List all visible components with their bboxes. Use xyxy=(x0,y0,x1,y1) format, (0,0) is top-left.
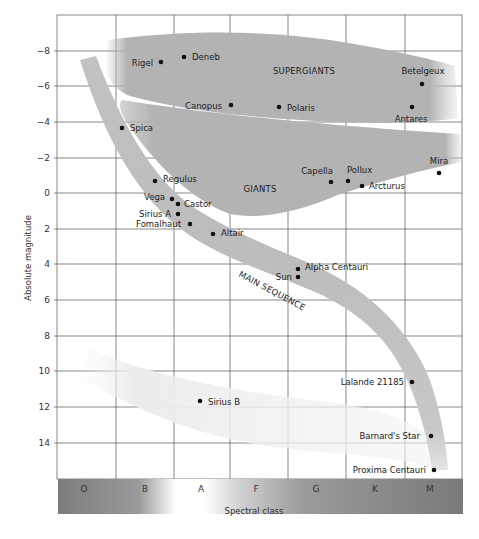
white-dwarf-band xyxy=(80,348,438,470)
region-label-supergiants: SUPERGIANTS xyxy=(273,66,335,76)
region-label-giants: GIANTS xyxy=(243,184,276,194)
svg-text:Polaris: Polaris xyxy=(287,103,315,113)
class-a: A xyxy=(198,484,205,494)
hr-diagram: −8 −6 −4 −2 0 2 4 6 8 10 12 14 Absolute … xyxy=(0,0,479,539)
ytick-4: 4 xyxy=(44,259,50,269)
svg-text:Regulus: Regulus xyxy=(163,174,197,184)
star-lalande-21185: Lalande 21185 xyxy=(341,377,415,387)
svg-text:Vega: Vega xyxy=(144,192,165,202)
svg-text:Proxima Centauri: Proxima Centauri xyxy=(353,465,426,475)
svg-text:Rigel: Rigel xyxy=(132,58,153,68)
svg-text:Sun: Sun xyxy=(276,272,292,282)
ytick-m2: −2 xyxy=(37,153,50,163)
svg-text:Canopus: Canopus xyxy=(185,101,223,111)
class-b: B xyxy=(142,484,148,494)
svg-text:Altair: Altair xyxy=(221,228,244,238)
star-alpha-centauri: Alpha Centauri xyxy=(296,262,369,272)
ytick-6: 6 xyxy=(44,295,50,305)
star-proxima-centauri: Proxima Centauri xyxy=(353,465,436,475)
ytick-m8: −8 xyxy=(37,46,51,56)
svg-text:Mira: Mira xyxy=(430,156,448,166)
class-o: O xyxy=(80,484,87,494)
ytick-0: 0 xyxy=(44,188,50,198)
svg-text:Capella: Capella xyxy=(301,166,333,176)
svg-text:Pollux: Pollux xyxy=(347,165,372,175)
ytick-8: 8 xyxy=(44,331,50,341)
y-axis-ticks: −8 −6 −4 −2 0 2 4 6 8 10 12 14 xyxy=(37,46,51,448)
svg-text:Betelgeux: Betelgeux xyxy=(401,66,444,76)
svg-text:Fomalhaut: Fomalhaut xyxy=(136,219,182,229)
ytick-2: 2 xyxy=(44,224,50,234)
svg-text:Sirius A: Sirius A xyxy=(139,209,171,219)
class-m: M xyxy=(426,484,434,494)
class-g: G xyxy=(313,484,320,494)
svg-text:Deneb: Deneb xyxy=(192,52,220,62)
ytick-m4: −4 xyxy=(37,117,51,127)
svg-text:Arcturus: Arcturus xyxy=(369,181,405,191)
x-axis-title: Spectral class xyxy=(225,506,284,516)
class-f: F xyxy=(253,484,258,494)
svg-text:Spica: Spica xyxy=(130,123,153,133)
svg-text:Alpha Centauri: Alpha Centauri xyxy=(305,262,368,272)
star-mira: Mira xyxy=(430,156,448,175)
ytick-10: 10 xyxy=(39,366,51,376)
ytick-12: 12 xyxy=(39,402,50,412)
svg-text:Antares: Antares xyxy=(395,114,428,124)
svg-text:Barnard's Star: Barnard's Star xyxy=(359,431,420,441)
ytick-14: 14 xyxy=(39,438,51,448)
svg-text:Lalande 21185: Lalande 21185 xyxy=(341,377,404,387)
ytick-m6: −6 xyxy=(37,81,51,91)
svg-text:Castor: Castor xyxy=(184,199,212,209)
y-axis-title: Absolute magnitude xyxy=(23,215,33,301)
svg-text:Sirius B: Sirius B xyxy=(208,397,240,407)
